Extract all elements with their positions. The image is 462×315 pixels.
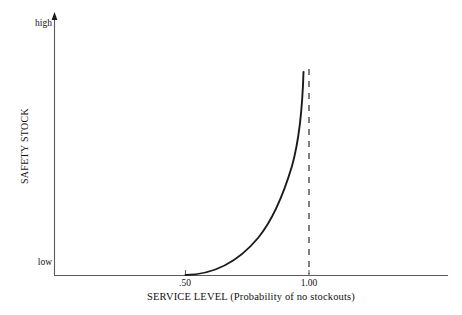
x-axis-tick-label-100: 1.00: [288, 279, 330, 289]
chart-figure: high low .50 1.00 SERVICE LEVEL (Probabi…: [0, 0, 462, 315]
y-axis-title: SAFETY STOCK: [20, 81, 30, 211]
x-axis-tick-label-050: .50: [165, 279, 205, 289]
y-axis-arrowhead: [52, 12, 58, 20]
y-axis-top-label: high: [0, 19, 52, 29]
safety-stock-curve: [186, 72, 304, 275]
y-axis-bottom-label: low: [0, 258, 52, 268]
x-axis-title: SERVICE LEVEL (Probability of no stockou…: [54, 292, 448, 303]
chart-plot-area: [0, 0, 462, 315]
